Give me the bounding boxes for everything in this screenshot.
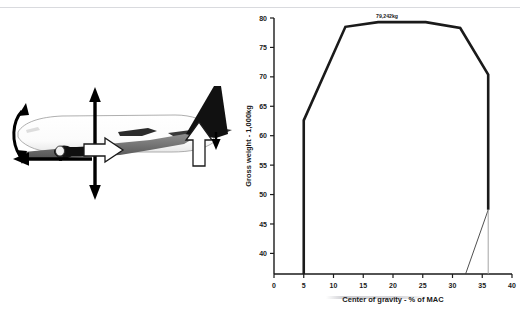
x-axis-tick-label: 5 <box>302 282 306 289</box>
y-axis-tick-label: 65 <box>259 103 267 110</box>
chart-axes <box>270 18 512 278</box>
y-axis-tick-label: 60 <box>259 132 267 139</box>
aft-limit-taper-line <box>466 210 489 274</box>
y-axis-tick-label: 45 <box>259 221 267 228</box>
chart-series <box>304 22 488 274</box>
y-axis-tick-label: 75 <box>259 44 267 51</box>
x-axis-tick-label: 0 <box>272 282 276 289</box>
y-axis-title: Gross weight - 1,000kg <box>244 105 253 187</box>
max-takeoff-weight-label: 79,242kg <box>376 13 398 19</box>
y-axis-tick-label: 55 <box>259 162 267 169</box>
x-axis-tick-label: 10 <box>330 282 338 289</box>
aircraft-side-view-force-diagram <box>0 70 245 210</box>
y-axis-tick-label: 80 <box>259 15 267 22</box>
x-axis-tick-label: 25 <box>419 282 427 289</box>
chart-annotations: 79,242kg <box>376 13 398 19</box>
cg-envelope-figure: 4045505560657075800510152025303540 79,24… <box>0 0 520 314</box>
weight-arrow-down <box>89 156 101 200</box>
x-axis-title: Center of gravity - % of MAC <box>342 295 444 304</box>
x-axis-tick-label: 20 <box>389 282 397 289</box>
y-axis-tick-label: 70 <box>259 73 267 80</box>
cg-envelope-chart: 4045505560657075800510152025303540 79,24… <box>240 4 520 310</box>
x-axis-tick-label: 35 <box>478 282 486 289</box>
x-axis-tick-label: 30 <box>449 282 457 289</box>
x-axis-tick-label: 40 <box>508 282 516 289</box>
cg-envelope-boundary <box>304 22 488 274</box>
y-axis-tick-label: 40 <box>259 250 267 257</box>
y-axis-tick-label: 50 <box>259 191 267 198</box>
x-axis-tick-label: 15 <box>359 282 367 289</box>
